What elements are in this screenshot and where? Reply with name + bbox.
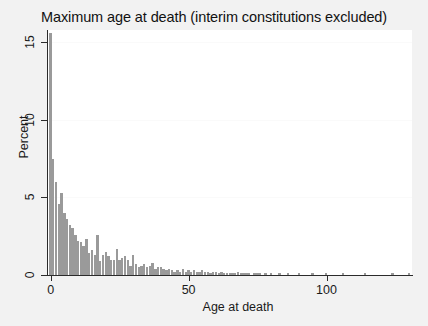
plot-area bbox=[48, 30, 412, 275]
x-tick-mark bbox=[189, 276, 190, 281]
x-tick-mark bbox=[51, 276, 52, 281]
x-tick-label: 100 bbox=[316, 283, 337, 297]
chart-title: Maximum age at death (interim constituti… bbox=[0, 9, 428, 25]
bars-container bbox=[48, 30, 412, 275]
y-tick-mark bbox=[41, 197, 47, 198]
x-axis-title: Age at death bbox=[0, 300, 428, 314]
histogram-figure: Maximum age at death (interim constituti… bbox=[0, 0, 428, 326]
x-axis-line bbox=[47, 275, 413, 276]
y-tick-mark bbox=[41, 275, 47, 276]
y-tick-label: 15 bbox=[22, 34, 38, 50]
y-tick-mark bbox=[41, 42, 47, 43]
y-tick-label: 0 bbox=[22, 267, 38, 283]
y-tick-label: 5 bbox=[22, 189, 38, 205]
x-tick-label: 50 bbox=[182, 283, 196, 297]
x-tick-mark bbox=[327, 276, 328, 281]
x-tick-label: 0 bbox=[47, 283, 54, 297]
y-axis-title: Percent bbox=[17, 97, 31, 177]
y-tick-mark bbox=[41, 120, 47, 121]
y-axis-line bbox=[47, 30, 48, 276]
